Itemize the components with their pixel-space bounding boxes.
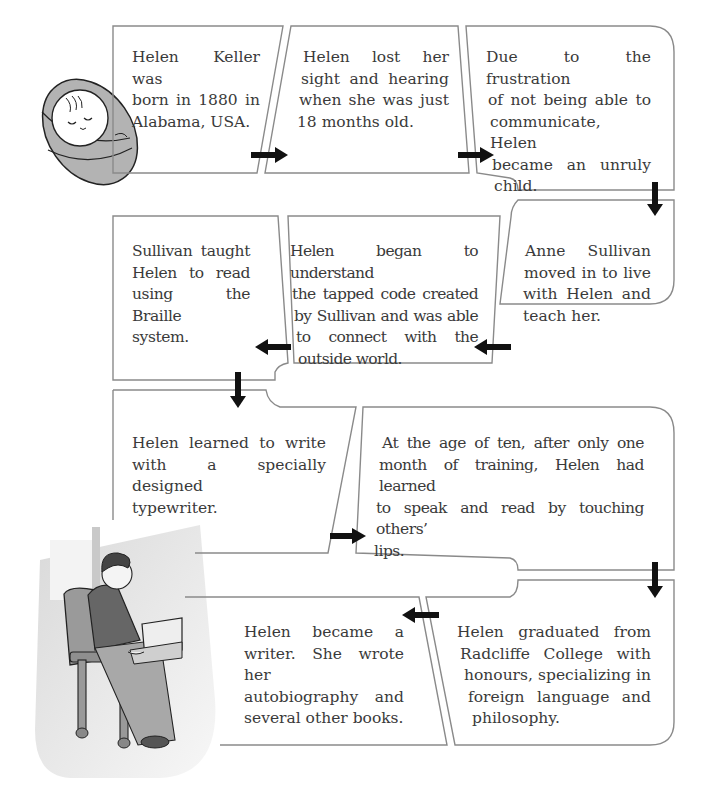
step-6-text: Sullivan taught Helen to read using the …: [132, 241, 250, 349]
step-1-text: Helen Keller was born in 1880 in Alabama…: [132, 47, 260, 133]
step-4-text: Anne Sullivan moved in to live with Hele…: [523, 241, 651, 327]
step-5-text: Helen began to understand the tapped cod…: [290, 241, 478, 370]
arrow-left-icon: [255, 339, 291, 355]
step-10-text: Helen became a writer. She wrote her aut…: [244, 622, 404, 730]
step-2-text: Helen lost her sight and hearing when sh…: [297, 47, 449, 133]
arrow-left-icon: [402, 607, 439, 623]
step-9-text: Helen graduated from Radcliffe College w…: [457, 622, 651, 730]
helen-keller-timeline-diagram: Helen Keller was born in 1880 in Alabama…: [0, 0, 708, 797]
step-3-text: Due to the frustration of not being able…: [486, 47, 651, 198]
step-7-text: Helen learned to write with a specially …: [132, 433, 326, 519]
step-8-text: At the age of ten, after only one month …: [374, 433, 644, 562]
arrow-right-icon: [330, 528, 366, 544]
